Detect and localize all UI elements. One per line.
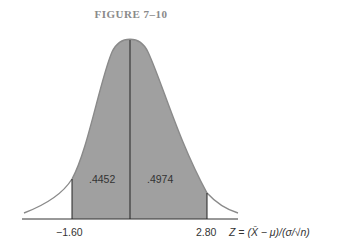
left-area-label: .4452 [89, 173, 115, 185]
left-tick-label: −1.60 [56, 226, 83, 238]
normal-curve-diagram [0, 0, 337, 248]
shaded-area [72, 39, 207, 219]
axis-formula-label: Z = (X̄ − μ)/(σ/√n) [229, 226, 310, 238]
right-tick-label: 2.80 [196, 226, 216, 238]
right-area-label: .4974 [147, 173, 173, 185]
